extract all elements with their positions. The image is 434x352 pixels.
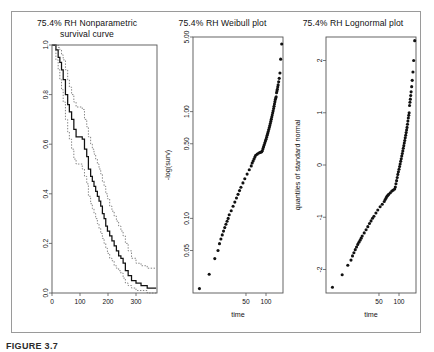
y-tick-label: -2 <box>316 266 323 272</box>
data-point <box>277 80 280 83</box>
data-point <box>408 111 411 114</box>
y-tick-label: 5.00 <box>183 30 190 43</box>
y-tick-label: 0.05 <box>183 244 190 257</box>
scatter-points <box>198 42 283 290</box>
data-point <box>250 164 253 167</box>
y-tick-label: 0.6 <box>42 139 49 148</box>
data-point <box>400 157 403 160</box>
data-point <box>235 197 238 200</box>
scatter-points <box>331 39 416 289</box>
y-tick-label: 1 <box>316 111 323 115</box>
y-tick-label: 0.50 <box>183 137 190 150</box>
y-tick-label: 0.4 <box>42 189 49 198</box>
data-point <box>363 231 366 234</box>
data-point <box>400 155 403 158</box>
weibull-plot: 0.050.100.501.005.0050100time-log(surv) <box>157 12 288 334</box>
data-point <box>401 152 404 155</box>
data-point <box>398 165 401 168</box>
y-axis-label: -log(surv) <box>163 150 172 180</box>
data-point <box>239 186 242 189</box>
data-point <box>404 134 407 137</box>
data-point <box>223 226 226 229</box>
data-point <box>208 273 211 276</box>
x-tick-label: 200 <box>102 298 113 305</box>
data-point <box>381 203 384 206</box>
data-point <box>278 71 281 74</box>
data-point <box>216 249 219 252</box>
data-point <box>361 235 364 238</box>
y-tick-label: 0.0 <box>42 288 49 297</box>
y-tick-label: 0 <box>316 163 323 167</box>
data-point <box>397 170 400 173</box>
data-point <box>219 238 222 241</box>
data-point <box>412 59 415 62</box>
data-point <box>408 104 411 107</box>
data-point <box>396 173 399 176</box>
x-tick-label: 50 <box>242 298 250 305</box>
data-point <box>407 116 410 119</box>
data-point <box>246 173 249 176</box>
data-point <box>365 228 368 231</box>
data-point <box>404 136 407 139</box>
data-point <box>405 128 408 131</box>
data-point <box>331 286 334 289</box>
data-point <box>413 39 416 42</box>
data-point <box>402 144 405 147</box>
data-point <box>376 208 379 211</box>
data-point <box>397 168 400 171</box>
data-point <box>228 213 231 216</box>
data-point <box>275 95 278 98</box>
data-point <box>405 126 408 129</box>
data-point <box>403 139 406 142</box>
data-point <box>213 257 216 260</box>
data-point <box>396 176 399 179</box>
data-point <box>241 181 244 184</box>
data-point <box>379 205 382 208</box>
y-axis-label: quantiles of standard normal <box>293 119 302 210</box>
panel-nonparametric-survival: 75.4% RH Nonparametric survival curve 0.… <box>12 12 162 334</box>
data-point <box>394 185 397 188</box>
data-point <box>277 83 280 86</box>
data-point <box>248 168 251 171</box>
data-point <box>233 201 236 204</box>
y-tick-label: 2 <box>316 58 323 62</box>
data-point <box>227 217 230 220</box>
data-point <box>399 160 402 163</box>
y-tick-label: 0.2 <box>42 238 49 247</box>
y-tick-label: 1.0 <box>42 40 49 49</box>
data-point <box>406 120 409 123</box>
data-point <box>222 230 225 233</box>
data-point <box>218 242 221 245</box>
x-tick-label: 300 <box>130 298 141 305</box>
data-point <box>401 149 404 152</box>
survival-curve-plot: 0.00.20.40.60.81.00100200300 <box>12 12 162 334</box>
data-point <box>238 189 241 192</box>
data-point <box>352 251 355 254</box>
figure-frame: 75.4% RH Nonparametric survival curve 0.… <box>11 11 421 333</box>
x-tick-label: 100 <box>394 298 405 305</box>
data-point <box>346 264 349 267</box>
data-point <box>399 162 402 165</box>
data-point <box>368 222 371 225</box>
data-point <box>411 79 414 82</box>
figure-caption: FIGURE 3.7 <box>6 341 58 352</box>
data-point <box>232 205 235 208</box>
x-tick-label: 100 <box>261 298 272 305</box>
x-axis-label: time <box>231 310 245 319</box>
data-point <box>226 220 229 223</box>
confidence-band-line <box>52 45 156 293</box>
data-point <box>372 215 375 218</box>
panel-lognormal: 75.4% RH Lognormal plot -2-101250100time… <box>284 12 422 334</box>
y-tick-label: 0.8 <box>42 90 49 99</box>
data-point <box>351 254 354 257</box>
data-point <box>224 223 227 226</box>
data-point <box>407 114 410 117</box>
survival-step-line <box>52 45 156 288</box>
y-tick-label: 1.00 <box>183 105 190 118</box>
x-tick-label: 50 <box>375 298 383 305</box>
y-tick-label: -1 <box>316 214 323 220</box>
data-point <box>374 212 377 215</box>
data-point <box>243 177 246 180</box>
data-point <box>405 131 408 134</box>
data-point <box>366 225 369 228</box>
